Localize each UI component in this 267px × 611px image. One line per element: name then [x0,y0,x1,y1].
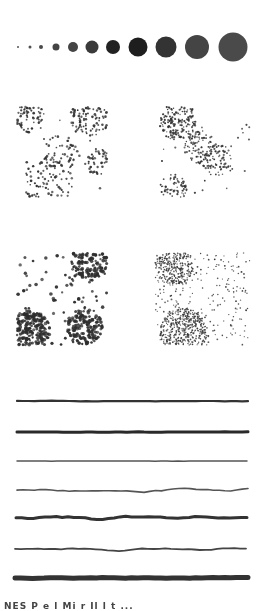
line-2-straight-thick [17,432,248,433]
dot-density-fields [16,106,250,347]
field-top-right [159,106,250,198]
line-weight-samples [15,401,248,579]
scale-circle-1 [17,46,19,48]
figure-svg [0,0,267,611]
scale-circle-7 [106,40,120,54]
figure-caption-clipped: NES P e l Mi r Il l t ... [4,601,134,611]
scale-circle-6 [86,41,99,54]
field-bottom-right [154,252,250,345]
scale-circle-10 [185,35,209,59]
line-5-wavy-thick [16,516,247,519]
scale-circle-11 [219,33,248,62]
scale-circle-8 [129,38,148,57]
scale-circle-2 [29,46,32,49]
field-bottom-left [16,252,108,347]
size-scale-circles [17,33,248,62]
line-6-curved-thin [15,548,246,551]
line-4-wavy-thin [17,488,248,492]
scale-circle-4 [53,44,60,51]
line-7-rough-thick [15,578,248,579]
field-top-left [16,106,108,198]
figure-canvas: NES P e l Mi r Il l t ... [0,0,267,611]
scale-circle-5 [68,42,78,52]
line-1-straight-medium [17,401,248,402]
scale-circle-3 [39,45,43,49]
scale-circle-9 [156,37,177,58]
